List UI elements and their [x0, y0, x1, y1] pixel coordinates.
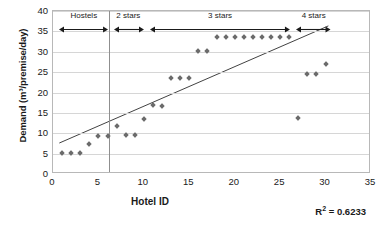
y-axis-tick: 35 — [26, 25, 48, 36]
category-label: 2 stars — [116, 11, 140, 20]
category-range-arrow — [114, 25, 144, 34]
scatter-chart: Demand (m³/premise/day) 0510152025303540… — [0, 0, 384, 229]
gridline — [53, 133, 369, 134]
x-axis-tick: 25 — [274, 176, 285, 187]
category-label: 3 stars — [208, 11, 232, 20]
gridline — [53, 72, 369, 73]
x-axis-title: Hotel ID — [0, 196, 300, 207]
x-axis-tick: 15 — [183, 176, 194, 187]
category-range-arrow — [150, 25, 290, 34]
category-label: 4 stars — [302, 11, 326, 20]
r-squared-value: = 0.6233 — [326, 206, 366, 217]
y-axis-tick: 10 — [26, 127, 48, 138]
x-axis-tick-labels: 05101520253035 — [52, 176, 370, 190]
x-axis-tick: 35 — [365, 176, 376, 187]
r-squared-label: R2 = 0.6233 — [315, 205, 366, 217]
x-axis-tick: 10 — [138, 176, 149, 187]
y-axis-tick: 40 — [26, 5, 48, 16]
x-axis-tick: 0 — [49, 176, 54, 187]
category-label: Hostels — [70, 11, 97, 20]
x-axis-tick: 20 — [228, 176, 239, 187]
y-axis-tick: 15 — [26, 106, 48, 117]
y-axis-tick: 0 — [26, 168, 48, 179]
y-axis-tick: 25 — [26, 66, 48, 77]
y-axis-tick: 30 — [26, 45, 48, 56]
y-axis-tick: 5 — [26, 147, 48, 158]
gridline — [53, 113, 369, 114]
y-axis-tick-labels: 0510152025303540 — [26, 10, 48, 173]
gridline — [53, 154, 369, 155]
category-range-arrow — [296, 25, 331, 34]
x-axis-tick: 5 — [95, 176, 100, 187]
x-axis-tick: 30 — [319, 176, 330, 187]
y-axis-tick: 20 — [26, 86, 48, 97]
gridline — [53, 52, 369, 53]
gridline — [53, 93, 369, 94]
category-annotations: Hostels2 stars3 stars4 stars — [52, 11, 370, 37]
category-range-arrow — [59, 25, 108, 34]
